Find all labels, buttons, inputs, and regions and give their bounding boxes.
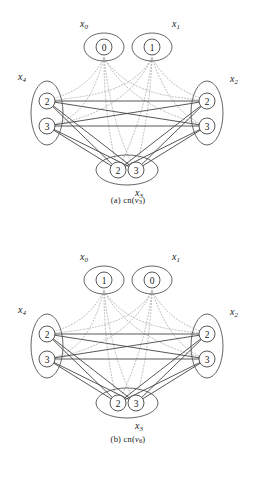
node-label-x0-0: 1: [102, 276, 107, 286]
dotted-edges-a: [47, 58, 207, 170]
group-label-x0: x0: [79, 18, 88, 31]
figure-b-caption: (b) cn(v6): [0, 434, 256, 444]
group-label-x4: x4: [17, 71, 26, 84]
figure-a-caption-prefix: (a): [111, 195, 121, 205]
node-label-x4-1: 3: [45, 355, 50, 365]
group-ellipse-x3: [96, 388, 158, 418]
solid-edges-a: [47, 101, 207, 170]
group-label-x1: x1: [171, 18, 180, 31]
node-label-x0-0: 0: [102, 43, 107, 53]
group-label-x4: x4: [17, 304, 26, 317]
node-label-x4-0: 2: [45, 330, 50, 340]
group-ellipses-a: [31, 33, 223, 185]
group-label-x1: x1: [171, 251, 180, 264]
figure-b: 1 0 2 3 2 3 2 3 x0 x1: [0, 236, 256, 479]
group-label-x0: x0: [79, 251, 88, 264]
figure-a-caption-fn: cn(: [123, 195, 134, 205]
nodes-b: [39, 272, 215, 411]
solid-edges-b: [47, 334, 207, 403]
dotted-edges-b: [47, 291, 207, 403]
node-label-x3-1: 3: [134, 166, 139, 176]
node-label-x4-1: 3: [45, 122, 50, 132]
group-ellipses-b: [31, 266, 223, 418]
group-ellipse-x4: [31, 314, 63, 378]
group-label-x2: x2: [229, 306, 238, 319]
node-label-x3-1: 3: [134, 399, 139, 409]
figure-b-caption-prefix: (b): [111, 434, 122, 444]
nodes-a: [39, 39, 215, 178]
group-ellipse-x4: [31, 81, 63, 145]
node-labels-a: 0 1 2 3 2 3 2 3: [45, 43, 210, 176]
node-label-x2-1: 3: [205, 355, 210, 365]
group-ellipse-x2: [191, 81, 223, 145]
node-label-x4-0: 2: [45, 97, 50, 107]
group-label-x2: x2: [229, 73, 238, 86]
node-label-x1-0: 0: [150, 276, 155, 286]
figure-b-caption-fn: cn(: [123, 434, 134, 444]
figure-a-caption-close: ): [142, 195, 145, 205]
node-label-x2-0: 2: [205, 330, 210, 340]
group-label-x3: x3: [134, 420, 143, 433]
group-ellipse-x3: [96, 155, 158, 185]
node-label-x2-1: 3: [205, 122, 210, 132]
node-label-x3-0: 2: [116, 166, 121, 176]
figure-a-canvas: 0 1 2 3 2 3 2 3 x0 x1: [0, 0, 256, 212]
figure-a-caption: (a) cn(v3): [0, 195, 256, 205]
figure-page: 0 1 2 3 2 3 2 3 x0 x1: [0, 0, 256, 479]
node-label-x2-0: 2: [205, 97, 210, 107]
node-label-x3-0: 2: [116, 399, 121, 409]
node-label-x1-0: 1: [150, 43, 155, 53]
group-ellipse-x2: [191, 314, 223, 378]
figure-b-caption-close: ): [142, 434, 145, 444]
node-labels-b: 1 0 2 3 2 3 2 3: [45, 276, 210, 409]
figure-a: 0 1 2 3 2 3 2 3 x0 x1: [0, 0, 256, 240]
figure-b-canvas: 1 0 2 3 2 3 2 3 x0 x1: [0, 236, 256, 446]
